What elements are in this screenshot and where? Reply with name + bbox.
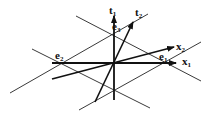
- label-x1: x1: [182, 55, 192, 69]
- axes-diagram: t1 t2 e3 x2 e1 x1 e2: [0, 0, 215, 113]
- label-t1: t1: [109, 4, 117, 18]
- label-e3: e3: [112, 20, 121, 34]
- label-e1: e1: [159, 50, 168, 64]
- label-x2: x2: [176, 40, 186, 54]
- label-t2: t2: [135, 6, 143, 20]
- line-a: [10, 14, 148, 93]
- label-e2: e2: [55, 49, 64, 63]
